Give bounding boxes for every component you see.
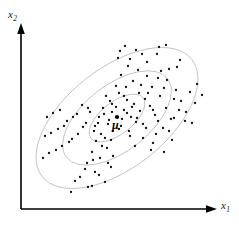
- data-point: [66, 120, 68, 122]
- x-axis-label: x1: [221, 200, 230, 211]
- data-point: [159, 95, 161, 97]
- data-point: [94, 125, 96, 127]
- data-point: [82, 126, 84, 128]
- scatter-points-group: [42, 44, 203, 193]
- data-point: [168, 68, 170, 70]
- data-point: [52, 112, 54, 114]
- data-point: [68, 141, 70, 143]
- data-point: [106, 147, 108, 149]
- data-point: [97, 122, 99, 124]
- data-point: [128, 130, 130, 132]
- data-point: [137, 69, 139, 71]
- data-point: [129, 135, 131, 137]
- data-point: [93, 130, 95, 132]
- data-point: [140, 84, 142, 86]
- data-point: [142, 137, 144, 139]
- x-axis-arrowhead: [206, 205, 217, 213]
- data-point: [48, 152, 50, 154]
- data-point: [160, 70, 162, 72]
- data-point: [59, 109, 61, 111]
- mean-mu-label: μ: [112, 119, 119, 131]
- data-point: [180, 100, 182, 102]
- y-axis-label: x2: [8, 9, 17, 20]
- data-point: [154, 114, 156, 116]
- data-point: [91, 185, 93, 187]
- data-point: [126, 99, 128, 101]
- data-point: [147, 92, 149, 94]
- data-point: [63, 125, 65, 127]
- data-point: [149, 105, 151, 107]
- data-point: [134, 145, 136, 147]
- data-point: [86, 162, 88, 164]
- data-point: [165, 44, 167, 46]
- data-point: [171, 139, 173, 141]
- data-point: [115, 106, 117, 108]
- data-point: [81, 104, 83, 106]
- data-point: [136, 117, 138, 119]
- data-point: [157, 77, 159, 79]
- data-point: [191, 122, 193, 124]
- data-point: [70, 191, 72, 193]
- data-point: [111, 111, 113, 113]
- data-point: [57, 128, 59, 130]
- data-point: [157, 120, 159, 122]
- data-point: [163, 151, 165, 153]
- data-point: [173, 98, 175, 100]
- data-point: [61, 145, 63, 147]
- data-point: [104, 181, 106, 183]
- data-point: [138, 92, 140, 94]
- data-point: [92, 159, 94, 161]
- data-point: [102, 107, 104, 109]
- data-point: [110, 166, 112, 168]
- data-point: [98, 174, 100, 176]
- data-point: [55, 149, 57, 151]
- data-point: [99, 157, 101, 159]
- data-point: [162, 127, 164, 129]
- data-point: [107, 162, 109, 164]
- data-point: [101, 145, 103, 147]
- data-point: [130, 116, 132, 118]
- data-point: [185, 111, 187, 113]
- data-point: [135, 121, 137, 123]
- data-point: [163, 87, 165, 89]
- data-point: [95, 140, 97, 142]
- data-point: [74, 180, 76, 182]
- data-point: [94, 171, 96, 173]
- scatter-plot-canvas: [0, 0, 239, 227]
- data-point: [125, 86, 127, 88]
- data-point: [44, 135, 46, 137]
- data-point: [179, 59, 181, 61]
- data-point: [151, 86, 153, 88]
- data-point: [189, 91, 191, 93]
- data-point: [123, 109, 125, 111]
- data-point: [166, 79, 168, 81]
- x-axis-label-subscript: 1: [226, 205, 230, 214]
- data-point: [85, 122, 87, 124]
- data-point: [178, 109, 180, 111]
- data-point: [121, 118, 123, 120]
- data-point: [173, 117, 175, 119]
- data-point: [139, 110, 141, 112]
- data-point: [129, 58, 131, 60]
- data-point: [170, 118, 172, 120]
- data-point: [196, 83, 198, 85]
- data-point: [46, 116, 48, 118]
- data-point: [72, 116, 74, 118]
- data-point: [175, 89, 177, 91]
- data-point: [168, 130, 170, 132]
- data-point: [115, 85, 117, 87]
- data-point: [165, 107, 167, 109]
- data-point: [109, 100, 111, 102]
- data-point: [133, 103, 135, 105]
- data-point: [145, 127, 147, 129]
- data-point: [91, 151, 93, 153]
- data-point: [108, 119, 110, 121]
- data-point: [98, 116, 100, 118]
- data-point: [150, 149, 152, 151]
- data-point: [71, 138, 73, 140]
- data-point: [112, 155, 114, 157]
- y-axis-label-subscript: 2: [13, 14, 17, 23]
- data-point: [124, 45, 126, 47]
- data-point: [152, 142, 154, 144]
- data-point: [105, 95, 107, 97]
